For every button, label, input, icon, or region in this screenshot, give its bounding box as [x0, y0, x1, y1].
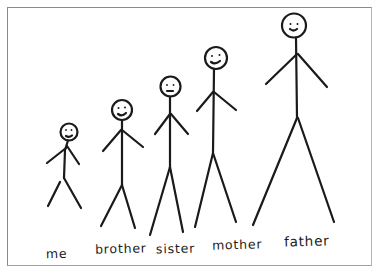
label-father: father	[284, 232, 330, 249]
figure-mother	[195, 47, 236, 227]
figure-brother	[101, 100, 143, 228]
figure-sister	[150, 77, 188, 236]
figure-father	[253, 14, 334, 226]
label-sister: sister	[156, 240, 195, 256]
figure-me	[47, 124, 81, 209]
label-me: me	[46, 246, 68, 262]
label-brother: brother	[95, 240, 147, 256]
label-mother: mother	[212, 236, 263, 252]
